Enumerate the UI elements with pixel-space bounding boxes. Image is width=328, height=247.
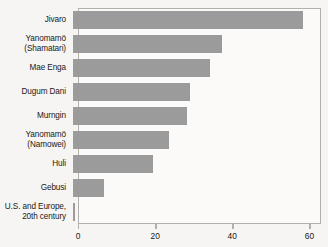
- bar-rows: Jivaro Yanomamö (Shamatari) Mae Enga Dug…: [0, 8, 328, 224]
- category-label: Yanomamö (Namowei): [0, 130, 72, 149]
- category-label: Murngin: [0, 111, 72, 121]
- x-axis-tick: [232, 224, 233, 229]
- bar-track: [72, 176, 315, 200]
- bar: [73, 107, 187, 125]
- category-label: Gebusi: [0, 183, 72, 193]
- bar-track: [72, 128, 315, 152]
- bar-chart: Jivaro Yanomamö (Shamatari) Mae Enga Dug…: [0, 0, 328, 247]
- bar-row: Yanomamö (Namowei): [0, 128, 328, 152]
- bar-row: Dugum Dani: [0, 80, 328, 104]
- bar: [73, 131, 169, 149]
- bar-row: Huli: [0, 152, 328, 176]
- category-label: Mae Enga: [0, 63, 72, 73]
- bar: [73, 179, 104, 197]
- bar-track: [72, 56, 315, 80]
- x-axis-tick-label: 0: [76, 231, 81, 241]
- bar: [73, 59, 210, 77]
- bar: [73, 35, 222, 53]
- x-axis-tick-label: 60: [305, 231, 314, 241]
- x-axis-tick: [309, 224, 310, 229]
- bar: [73, 203, 75, 221]
- bar-track: [72, 8, 315, 32]
- category-label: Jivaro: [0, 15, 72, 25]
- bar-track: [72, 152, 315, 176]
- bar: [73, 83, 190, 101]
- bar-row: Murngin: [0, 104, 328, 128]
- bar-row: Gebusi: [0, 176, 328, 200]
- category-label: Yanomamö (Shamatari): [0, 34, 72, 53]
- x-axis-tick: [78, 224, 79, 229]
- bar-track: [72, 104, 315, 128]
- category-label: Huli: [0, 159, 72, 169]
- category-label: Dugum Dani: [0, 87, 72, 97]
- x-axis-tick-label: 40: [228, 231, 237, 241]
- x-axis-tick-label: 20: [150, 231, 159, 241]
- bar-row: Yanomamö (Shamatari): [0, 32, 328, 56]
- x-axis: 0204060: [78, 224, 321, 246]
- bar-row: Mae Enga: [0, 56, 328, 80]
- bar-track: [72, 32, 315, 56]
- bar-row: Jivaro: [0, 8, 328, 32]
- bar-track: [72, 200, 315, 224]
- bar-track: [72, 80, 315, 104]
- bar: [73, 11, 303, 29]
- x-axis-tick: [155, 224, 156, 229]
- bar-row: U.S. and Europe, 20th century: [0, 200, 328, 224]
- category-label: U.S. and Europe, 20th century: [0, 202, 72, 221]
- bar: [73, 155, 153, 173]
